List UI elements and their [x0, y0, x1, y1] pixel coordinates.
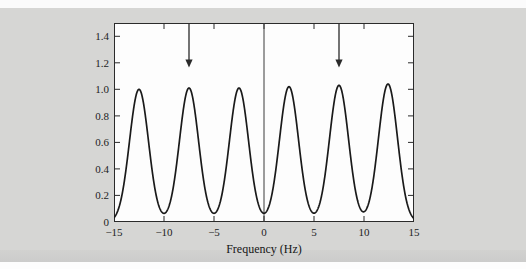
- arrow-left-head: [185, 59, 192, 67]
- figure-container: 0 0.2 0.4 0.6 0.8 1.0 1.2 1.4 −15 −10 −5…: [0, 0, 526, 269]
- y-tick-label-0_8: 0.8: [95, 110, 109, 122]
- y-axis-ticks-right: [408, 36, 414, 195]
- y-tick-label-0_4: 0.4: [95, 163, 109, 175]
- arrow-right-head: [335, 59, 342, 67]
- x-tick-label-5: 5: [311, 226, 317, 238]
- x-tick-label-minus5: −5: [208, 226, 220, 238]
- y-tick-label-0_6: 0.6: [95, 136, 109, 148]
- x-tick-label-minus10: −10: [155, 226, 172, 238]
- x-tick-label-0: 0: [261, 226, 267, 238]
- page-bottom-margin: [0, 262, 526, 269]
- spectrum-plot-svg: [114, 23, 414, 222]
- x-tick-label-15: 15: [409, 226, 420, 238]
- x-tick-label-10: 10: [359, 226, 370, 238]
- plot-area: 0 0.2 0.4 0.6 0.8 1.0 1.2 1.4 −15 −10 −5…: [114, 23, 414, 222]
- x-axis-label: Frequency (Hz): [226, 242, 302, 257]
- page-top-margin: [0, 0, 526, 8]
- y-tick-label-1_4: 1.4: [95, 30, 109, 42]
- y-tick-label-1_2: 1.2: [95, 57, 109, 69]
- x-tick-label-minus15: −15: [105, 226, 122, 238]
- y-axis-ticks: [114, 36, 120, 222]
- y-tick-label-0_2: 0.2: [95, 189, 109, 201]
- y-tick-label-1_0: 1.0: [95, 83, 109, 95]
